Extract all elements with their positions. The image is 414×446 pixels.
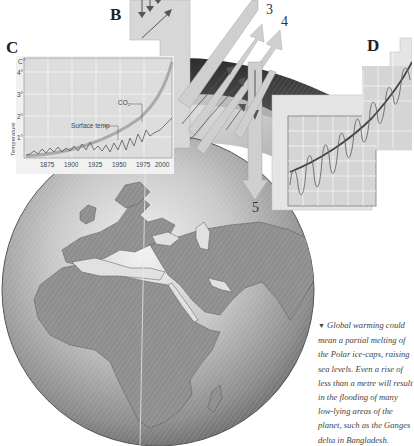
panel-c-label: C bbox=[6, 38, 18, 58]
y-tick-2: 2° bbox=[17, 113, 23, 120]
arrow-4-label: 4 bbox=[281, 14, 288, 30]
arrow-5-label: 5 bbox=[252, 200, 259, 216]
figure-caption: ▼ Global warming could mean a partial me… bbox=[318, 318, 414, 446]
y-tick-3: 3° bbox=[17, 91, 23, 98]
arrow-3-label: 3 bbox=[266, 2, 273, 18]
caption-marker-icon: ▼ bbox=[318, 322, 325, 330]
x-tick-1950: 1950 bbox=[112, 161, 126, 168]
caption-text: Global warming could mean a partial melt… bbox=[318, 320, 413, 445]
x-tick-1925: 1925 bbox=[88, 161, 102, 168]
x-tick-1875: 1875 bbox=[40, 161, 54, 168]
surface-temp-series-label: Surface temp bbox=[71, 122, 110, 129]
x-tick-2000: 2000 bbox=[155, 161, 169, 168]
panel-d-label: D bbox=[367, 36, 379, 56]
y-axis-label: Temperature bbox=[10, 122, 16, 156]
y-tick-4: 4° bbox=[17, 69, 23, 76]
co2-series-label: CO₂ bbox=[118, 99, 130, 106]
panel-d-chart bbox=[272, 38, 412, 210]
x-tick-1900: 1900 bbox=[64, 161, 78, 168]
panel-c-chart bbox=[16, 56, 174, 174]
x-tick-1975: 1975 bbox=[136, 161, 150, 168]
y-tick-1: 1° bbox=[17, 134, 23, 141]
panel-b-label: B bbox=[110, 5, 121, 25]
chart-c-unit: C° bbox=[18, 58, 25, 65]
